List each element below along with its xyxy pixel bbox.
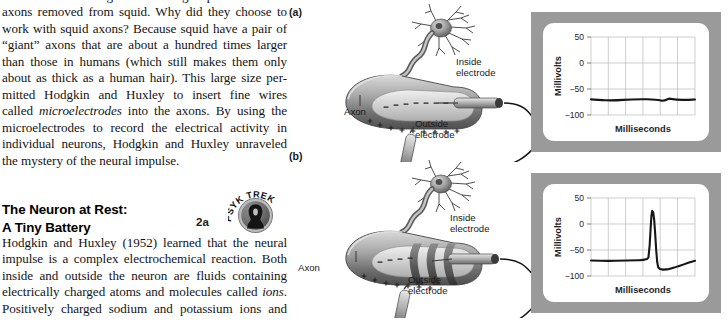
chart-grid [591,198,695,276]
resting-potential-chart: 50 0 −50 −100 Millivolts Milliseconds [543,23,709,141]
psyktrek-disc [239,199,272,232]
body-text-pre: called [2,103,39,118]
body-line: Positively charged sodium and potassium … [2,301,287,317]
y-tick-0: 0 [579,58,584,68]
chart-panel-a-card: 50 0 −50 −100 Millivolts Milliseconds [543,23,709,141]
paragraph-squid-axons: to answer in their groundbreaking experi… [2,0,287,169]
y-tick-neg100: −100 [565,271,585,281]
body-text-post: . [284,284,287,299]
y-tick-neg100: −100 [565,110,585,120]
chart-panel-a-frame: 50 0 −50 −100 Millivolts Milliseconds [531,12,721,152]
figure-panel-b: (b) [288,150,728,328]
x-axis-title: Milliseconds [615,124,671,134]
italic-term-microelectrodes: microelectrodes [39,103,122,118]
body-line: “giant” axons that are about a hundred t… [2,37,287,53]
outside-electrode-label: Outside electrode [408,274,470,297]
paragraph-neuron-at-rest: Hodgkin and Huxley (1952) learned that t… [2,235,287,317]
y-tick-50: 50 [574,32,584,42]
body-line: the mystery of the neural impulse. [2,153,287,169]
inside-electrode-label: Inside electrode [456,56,518,79]
outside-electrode-wire [408,304,536,318]
body-text-pre: electrically charged atoms and molecules… [2,284,262,299]
y-tick-50: 50 [574,193,584,203]
psyktrek-module-number: 2a [196,216,209,228]
y-axis-title: Millivolts [553,217,563,257]
figure-area: (a) [288,0,728,328]
x-axis-title: Milliseconds [615,285,671,295]
body-line: microelectrodes to record the electrical… [2,120,287,136]
body-line: about as thick as a human hair). This la… [2,70,287,86]
body-line-with-italic: called microelectrodes into the axons. B… [2,103,287,119]
y-axis-title: Millivolts [553,56,563,96]
chart-panel-b-card: 50 0 −50 −100 Millivolts Milliseconds [543,184,709,302]
y-tick-neg50: −50 [569,84,584,94]
inside-electrode-label: Inside electrode [450,212,512,235]
axon-label: Axon [298,262,320,273]
nucleus [436,23,443,29]
text-column: to answer in their groundbreaking experi… [0,0,288,328]
body-line: Hodgkin and Huxley (1952) learned that t… [2,235,287,251]
body-line: impulse is a complex electrochemical rea… [2,251,287,267]
psyktrek-badge[interactable]: PSYK TREK 2a [228,186,284,242]
figure-panel-a: (a) [288,0,728,163]
body-line: work with squid axons? Because squid hav… [2,21,287,37]
italic-term-ions: ions [262,284,284,299]
body-line: mitted Hodgkin and Huxley to insert fine… [2,87,287,103]
axon-label: Axon [344,106,366,117]
head-profile-icon [246,203,265,230]
body-text-post: into the axons. By using the [122,103,287,118]
body-line: inside and outside the neuron are fluids… [2,268,287,284]
chart-grid [591,37,695,115]
body-line-with-italic: electrically charged atoms and molecules… [2,284,287,300]
textbook-page: to answer in their groundbreaking experi… [0,0,728,328]
y-tick-0: 0 [579,219,584,229]
body-line: axons removed from squid. Why did they c… [2,4,287,20]
chart-y-ticks [587,198,591,276]
body-line: individual neurons, Hodgkin and Huxley u… [2,136,287,152]
y-tick-neg50: −50 [569,245,584,255]
action-potential-chart: 50 0 −50 −100 Millivolts Milliseconds [543,184,709,302]
chart-y-ticks [587,37,591,115]
nucleus [436,179,443,185]
chart-panel-b-frame: 50 0 −50 −100 Millivolts Milliseconds [531,173,721,313]
body-line: than those in humans (which still makes … [2,54,287,70]
outside-electrode-label: Outside electrode [415,118,477,141]
